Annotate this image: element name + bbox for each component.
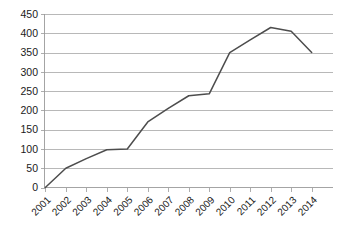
- y-axis-tick-label: 100: [20, 143, 38, 155]
- y-axis-tick-label: 400: [20, 27, 38, 39]
- line-chart: 050100150200250300350400450 200120022003…: [0, 0, 349, 235]
- y-axis-tick-label: 250: [20, 85, 38, 97]
- y-axis-tick-label: 200: [20, 104, 38, 116]
- y-axis-tick-label: 0: [32, 181, 38, 193]
- y-axis-tick-label: 300: [20, 66, 38, 78]
- y-axis-tick-label: 450: [20, 8, 38, 20]
- y-axis-tick-label: 50: [26, 162, 38, 174]
- chart-canvas: 050100150200250300350400450 200120022003…: [0, 0, 349, 235]
- y-axis-tick-label: 150: [20, 123, 38, 135]
- chart-background: [0, 0, 349, 235]
- y-axis-tick-label: 350: [20, 46, 38, 58]
